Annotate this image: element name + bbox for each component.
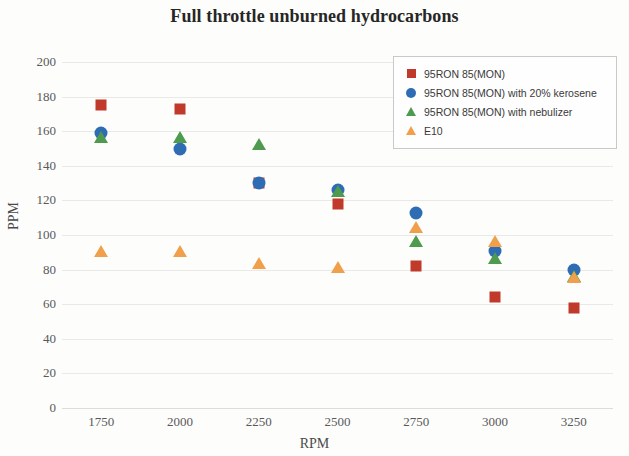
legend-circle-icon xyxy=(404,88,418,98)
legend-item-label: 95RON 85(MON) xyxy=(424,68,505,80)
legend-item[interactable]: 95RON 85(MON) with 20% kerosene xyxy=(404,83,608,102)
data-point xyxy=(174,142,187,155)
data-point xyxy=(567,271,581,283)
data-point xyxy=(252,177,265,190)
gridline xyxy=(62,304,613,305)
data-point xyxy=(331,185,345,197)
y-axis-tick-label: 200 xyxy=(14,54,56,70)
x-axis-tick-label: 3000 xyxy=(460,414,530,430)
gridline xyxy=(62,235,613,236)
x-axis-tick-label: 2750 xyxy=(381,414,451,430)
y-axis-tick-label: 100 xyxy=(14,227,56,243)
legend-square-icon xyxy=(404,69,418,78)
data-point xyxy=(94,131,108,143)
data-point xyxy=(488,235,502,247)
gridline xyxy=(62,373,613,374)
data-point xyxy=(94,245,108,257)
data-point xyxy=(173,131,187,143)
legend-item-label: 95RON 85(MON) with nebulizer xyxy=(424,106,572,118)
x-axis-title: RPM xyxy=(0,436,629,452)
legend-item[interactable]: 95RON 85(MON) xyxy=(404,64,608,83)
chart-title: Full throttle unburned hydrocarbons xyxy=(0,6,629,27)
y-axis-tick-label: 20 xyxy=(14,365,56,381)
data-point xyxy=(175,103,186,114)
legend-item[interactable]: 95RON 85(MON) with nebulizer xyxy=(404,102,608,121)
gridline xyxy=(62,339,613,340)
x-axis-tick-label: 1750 xyxy=(66,414,136,430)
data-point xyxy=(568,302,579,313)
gridline xyxy=(62,166,613,167)
data-point xyxy=(410,206,423,219)
data-point xyxy=(409,235,423,247)
data-point xyxy=(96,100,107,111)
y-axis-tick-labels: 200180160140120100806040200 xyxy=(8,62,56,408)
y-axis-tick-label: 60 xyxy=(14,296,56,312)
data-point xyxy=(332,198,343,209)
y-axis-tick-label: 40 xyxy=(14,331,56,347)
legend-triangle-icon xyxy=(404,107,418,116)
data-point xyxy=(409,221,423,233)
y-axis-tick-label: 140 xyxy=(14,158,56,174)
y-axis-tick-label: 160 xyxy=(14,123,56,139)
y-axis-tick-label: 0 xyxy=(14,400,56,416)
legend-item-label: E10 xyxy=(424,125,443,137)
x-axis-tick-label: 2250 xyxy=(224,414,294,430)
chart-container: Full throttle unburned hydrocarbons PPM … xyxy=(0,0,629,456)
x-axis-tick-label: 2500 xyxy=(303,414,373,430)
x-axis-tick-labels: 1750200022502500275030003250 xyxy=(62,414,613,436)
data-point xyxy=(331,261,345,273)
x-axis-tick-label: 3250 xyxy=(539,414,609,430)
data-point xyxy=(488,252,502,264)
data-point xyxy=(411,261,422,272)
x-axis-tick-label: 2000 xyxy=(145,414,215,430)
y-axis-tick-label: 80 xyxy=(14,262,56,278)
data-point xyxy=(489,292,500,303)
data-point xyxy=(252,257,266,269)
legend: 95RON 85(MON)95RON 85(MON) with 20% kero… xyxy=(393,56,617,149)
legend-item-label: 95RON 85(MON) with 20% kerosene xyxy=(424,87,597,99)
legend-triangle-icon xyxy=(404,126,418,135)
data-point xyxy=(252,138,266,150)
gridline xyxy=(62,408,613,409)
data-point xyxy=(173,245,187,257)
legend-item[interactable]: E10 xyxy=(404,121,608,140)
y-axis-tick-label: 180 xyxy=(14,89,56,105)
y-axis-tick-label: 120 xyxy=(14,192,56,208)
